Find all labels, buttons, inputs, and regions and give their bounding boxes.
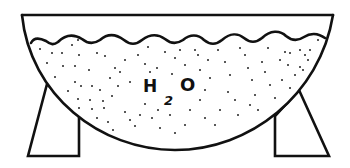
chemical-label-subscript: 2 — [164, 94, 173, 107]
chemical-label-h: H — [143, 78, 157, 95]
water-bowl-diagram — [0, 0, 350, 168]
chemical-label-o: O — [180, 76, 195, 94]
